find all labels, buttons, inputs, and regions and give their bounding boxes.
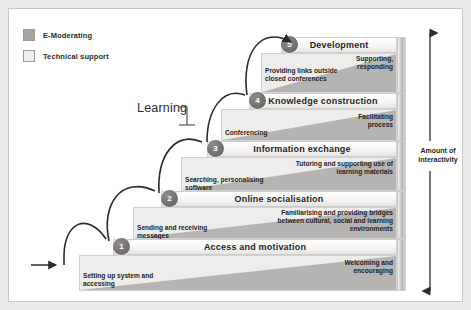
step-title: Access and motivation — [204, 242, 306, 252]
step-title-bar: Online socialisation — [161, 191, 397, 207]
square-swatch-icon — [23, 50, 35, 62]
legend: E-Moderating Technical support — [23, 29, 109, 71]
step-title-bar: Development — [281, 37, 397, 53]
step-riser-edge — [397, 191, 406, 239]
step-title: Development — [310, 40, 369, 50]
step-number-badge: 2 — [161, 190, 178, 207]
technical-support-label: Setting up system and accessing — [83, 272, 169, 288]
learning-label: Learning — [137, 101, 187, 115]
e-moderating-label: Welcoming and encouraging — [317, 259, 393, 275]
e-moderating-label: Tutoring and supporting use of learning … — [277, 160, 393, 176]
step-title-bar: Information exchange — [207, 141, 397, 157]
step-number-badge: 5 — [281, 36, 298, 53]
legend-item-e-moderating: E-Moderating — [23, 29, 109, 41]
step-number-badge: 1 — [113, 238, 130, 255]
step-title: Information exchange — [253, 144, 351, 154]
step-riser-edge — [397, 141, 406, 191]
step-riser-edge — [397, 239, 406, 291]
legend-item-label: Technical support — [43, 52, 109, 61]
legend-item-technical-support: Technical support — [23, 50, 109, 62]
step-number-badge: 3 — [207, 140, 224, 157]
e-moderating-label: Familiarising and providing bridges betw… — [257, 209, 393, 233]
step-title-bar: Knowledge construction — [249, 93, 397, 109]
interactivity-label: Amount of interactivity — [412, 147, 464, 164]
technical-support-label: Searching, personalising software — [185, 176, 275, 192]
step-riser-edge — [397, 93, 406, 141]
step-title-bar: Access and motivation — [113, 239, 397, 255]
step-title: Knowledge construction — [268, 96, 377, 106]
e-moderating-label: Facilitating process — [339, 113, 393, 129]
step-riser-edge — [397, 37, 406, 93]
technical-support-label: Conferencing — [225, 129, 305, 137]
legend-item-label: E-Moderating — [43, 31, 92, 40]
square-swatch-icon — [23, 29, 35, 41]
e-moderating-label: Supporting, responding — [325, 55, 393, 71]
step-number-badge: 4 — [249, 92, 266, 109]
step-title: Online socialisation — [234, 194, 323, 204]
technical-support-label: Sending and receiving messages — [137, 224, 229, 240]
diagram-frame: E-Moderating Technical support Developme… — [8, 8, 463, 302]
